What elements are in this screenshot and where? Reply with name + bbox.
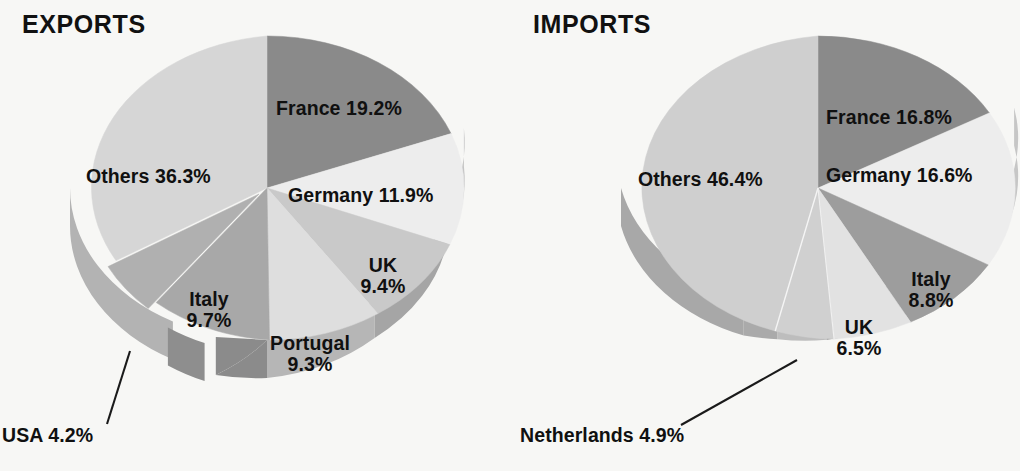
imports-label-italy: Italy 8.8% <box>900 269 962 311</box>
exports-label-italy-value: 9.7% <box>178 310 240 331</box>
imports-label-netherlands: Netherlands 4.9% <box>520 424 684 447</box>
imports-label-italy-value: 8.8% <box>900 290 962 311</box>
imports-label-france: France 16.8% <box>826 107 952 128</box>
exports-label-uk-name: UK <box>356 255 410 276</box>
imports-label-others: Others 46.4% <box>638 169 763 190</box>
imports-label-uk-name: UK <box>828 317 890 338</box>
exports-label-germany: Germany 11.9% <box>288 185 433 206</box>
exports-label-portugal-name: Portugal <box>261 333 359 354</box>
exports-label-uk-value: 9.4% <box>356 276 410 297</box>
exports-label-italy: Italy 9.7% <box>178 289 240 331</box>
imports-pie <box>621 36 1018 425</box>
exports-label-italy-name: Italy <box>178 289 240 310</box>
exports-label-uk: UK 9.4% <box>356 255 410 297</box>
exports-label-usa: USA 4.2% <box>2 424 93 447</box>
imports-label-italy-name: Italy <box>900 269 962 290</box>
imports-netherlands-leader-line <box>681 360 797 425</box>
imports-label-uk-value: 6.5% <box>828 338 890 359</box>
imports-label-germany: Germany 16.6% <box>826 165 973 186</box>
pie-charts-canvas <box>0 0 1020 471</box>
exports-slice-side-usa <box>168 327 205 381</box>
exports-label-portugal: Portugal 9.3% <box>261 333 359 375</box>
exports-label-others: Others 36.3% <box>86 166 211 187</box>
exports-usa-leader-line <box>107 351 130 424</box>
imports-label-uk: UK 6.5% <box>828 317 890 359</box>
exports-label-france: France 19.2% <box>276 98 402 119</box>
pie-chart-figure: EXPORTS IMPORTS <box>0 0 1020 471</box>
exports-label-portugal-value: 9.3% <box>261 354 359 375</box>
